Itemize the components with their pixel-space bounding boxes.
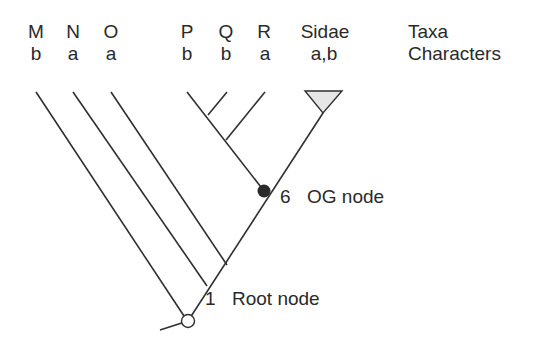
branch-q <box>208 92 227 115</box>
og-node-marker <box>258 185 271 198</box>
sidae-clade-triangle <box>305 91 342 113</box>
og-node-label: OG node <box>307 187 384 207</box>
taxon-name-o: O <box>104 22 119 42</box>
root-node-number: 1 <box>205 289 216 309</box>
taxon-name-sidae: Sidae <box>301 22 350 42</box>
character-p: b <box>182 44 193 64</box>
taxon-name-p: P <box>181 22 194 42</box>
taxon-name-q: Q <box>219 22 234 42</box>
taxon-name-m: M <box>28 22 44 42</box>
character-sidae: a,b <box>311 44 337 64</box>
root-node-label: Root node <box>232 289 320 309</box>
legend-characters-label: Characters <box>408 44 501 64</box>
legend-taxa-label: Taxa <box>408 22 448 42</box>
character-m: b <box>31 44 42 64</box>
taxon-name-r: R <box>257 22 271 42</box>
root-node-marker <box>182 315 195 328</box>
branch-r <box>226 92 265 140</box>
og-node-number: 6 <box>280 187 291 207</box>
taxon-name-n: N <box>66 22 80 42</box>
character-n: a <box>68 44 79 64</box>
branch-o <box>111 92 227 265</box>
branch-n <box>73 92 207 286</box>
character-o: a <box>106 44 117 64</box>
branch-m <box>36 92 184 316</box>
character-r: a <box>260 44 271 64</box>
character-q: b <box>221 44 232 64</box>
